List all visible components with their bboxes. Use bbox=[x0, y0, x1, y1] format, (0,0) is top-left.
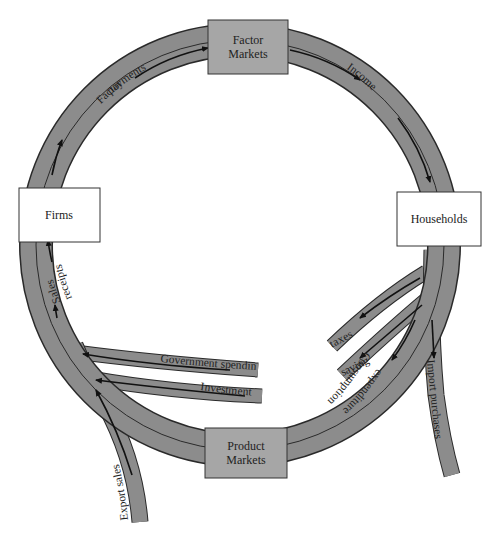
households-label: Households bbox=[411, 212, 468, 226]
product-markets-line1: Product bbox=[227, 439, 265, 453]
factor-markets-line1: Factor bbox=[233, 33, 264, 47]
firms-node: Firms bbox=[19, 188, 100, 242]
product-markets-node: Product Markets bbox=[205, 428, 287, 478]
factor-markets-line2: Markets bbox=[228, 47, 268, 61]
firms-label: Firms bbox=[45, 208, 73, 222]
circular-flow-diagram: Factor payments Income Consumption expen… bbox=[0, 0, 503, 538]
factor-markets-node: Factor Markets bbox=[208, 20, 288, 74]
households-node: Households bbox=[397, 192, 481, 246]
product-markets-line2: Markets bbox=[226, 453, 266, 467]
